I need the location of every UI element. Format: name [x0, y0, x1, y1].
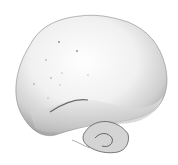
puffball-illustration [0, 0, 178, 165]
illustration-canvas [0, 0, 178, 165]
